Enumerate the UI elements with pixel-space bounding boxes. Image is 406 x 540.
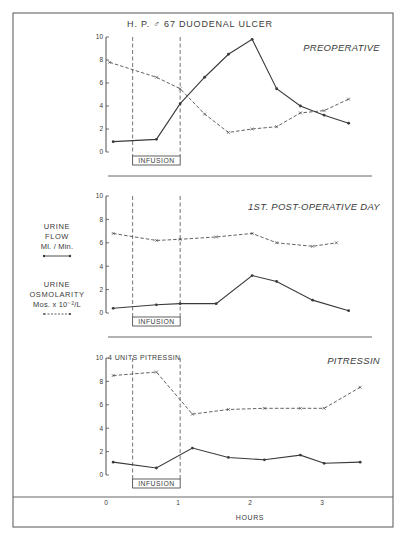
infusion-label: INFUSION: [138, 318, 174, 325]
flow-point-marker: [155, 467, 158, 470]
flow-point-marker: [323, 114, 326, 117]
y-tick-label: 8: [99, 378, 103, 385]
panel-3: 0246810INFUSIONPITRESSIN4 UNITS PITRESSI…: [96, 354, 380, 488]
x-axis-ticks: 0123: [104, 499, 324, 506]
y-tick-label: 4: [99, 102, 103, 109]
panel-1: 0246810INFUSIONPREOPERATIVE: [96, 33, 381, 165]
infusion-label: INFUSION: [138, 157, 174, 164]
osmolarity-x-marker: [347, 98, 350, 101]
y-tick-label: 0: [99, 148, 103, 155]
legend-flow-line3: Ml. / Min.: [18, 242, 96, 252]
y-tick-label: 2: [99, 448, 103, 455]
osmolarity-x-marker: [359, 386, 362, 389]
y-tick-label: 6: [99, 239, 103, 246]
flow-point-marker: [155, 138, 158, 141]
flow-point-marker: [251, 274, 254, 277]
y-tick-label: 10: [96, 192, 104, 199]
x-tick-label: 0: [104, 499, 108, 506]
flow-point-marker: [227, 53, 230, 56]
y-tick-label: 0: [99, 471, 103, 478]
y-tick-label: 0: [99, 309, 103, 316]
flow-point-marker: [347, 122, 350, 125]
flow-point-marker: [323, 462, 326, 465]
y-tick-label: 2: [99, 286, 103, 293]
x-tick-label: 3: [320, 499, 324, 506]
osmolarity-x-marker: [203, 113, 206, 116]
panel-title: 1ST. POST-OPERATIVE DAY: [248, 201, 380, 212]
y-tick-label: 6: [99, 401, 103, 408]
flow-point-marker: [112, 307, 115, 310]
osmolarity-line: [113, 233, 336, 246]
osmolarity-x-marker: [323, 407, 326, 410]
flow-point-marker: [299, 105, 302, 108]
legend-osm-line3: Mos. x 10⁻²/L: [18, 300, 96, 310]
flow-point-marker: [227, 456, 230, 459]
flow-line: [113, 448, 360, 468]
y-tick-label: 6: [99, 79, 103, 86]
y-tick-label: 2: [99, 125, 103, 132]
legend-urine-flow: URINE FLOW Ml. / Min.: [18, 222, 96, 263]
flow-point-marker: [179, 302, 182, 305]
flow-point-marker: [263, 458, 266, 461]
y-tick-label: 8: [99, 56, 103, 63]
x-axis-label: HOURS: [236, 514, 264, 521]
y-tick-label: 10: [96, 354, 104, 361]
osmolarity-x-marker: [335, 241, 338, 244]
legend-urine-osmolarity: URINE OSMOLARITY Mos. x 10⁻²/L: [18, 280, 96, 321]
osmolarity-x-marker: [155, 371, 158, 374]
dashed-line-x-icon: [42, 310, 72, 318]
legend-osm-line2: OSMOLARITY: [18, 290, 96, 300]
flow-point-marker: [311, 299, 314, 302]
solid-line-dot-icon: [42, 252, 72, 260]
panel-title: PREOPERATIVE: [303, 42, 380, 53]
y-tick-label: 8: [99, 216, 103, 223]
legend-osm-line1: URINE: [18, 280, 96, 290]
x-tick-label: 2: [248, 499, 252, 506]
panel-title: PITRESSIN: [327, 355, 380, 366]
chart-figure: H. P. ♂ 67 DUODENAL ULCER 0123 HOURS 024…: [0, 0, 406, 540]
flow-point-marker: [112, 140, 115, 143]
panel-2: 0246810INFUSION1ST. POST-OPERATIVE DAY: [96, 192, 381, 326]
chart-panels: 0246810INFUSIONPREOPERATIVE0246810INFUSI…: [96, 33, 381, 488]
y-tick-label: 4: [99, 425, 103, 432]
flow-point-marker: [275, 87, 278, 90]
flow-line: [113, 276, 348, 311]
flow-point-marker: [251, 38, 254, 41]
osmolarity-x-marker: [227, 131, 230, 134]
legend-flow-line1: URINE: [18, 222, 96, 232]
pitressin-annotation: 4 UNITS PITRESSIN: [108, 354, 181, 361]
flow-point-marker: [347, 309, 350, 312]
legend-flow-line2: FLOW: [18, 232, 96, 242]
flow-point-marker: [299, 454, 302, 457]
y-tick-label: 4: [99, 263, 103, 270]
flow-point-marker: [191, 447, 194, 450]
infusion-label: INFUSION: [138, 480, 174, 487]
flow-point-marker: [155, 303, 158, 306]
y-tick-label: 10: [96, 33, 104, 40]
flow-point-marker: [215, 302, 218, 305]
flow-point-marker: [179, 102, 182, 105]
flow-point-marker: [203, 76, 206, 79]
osmolarity-line: [110, 62, 349, 132]
osmolarity-line: [113, 372, 360, 414]
x-tick-label: 1: [176, 499, 180, 506]
flow-point-marker: [359, 461, 362, 464]
figure-frame: [13, 13, 393, 527]
flow-point-marker: [275, 280, 278, 283]
figure-title: H. P. ♂ 67 DUODENAL ULCER: [127, 19, 273, 29]
flow-point-marker: [112, 461, 115, 464]
flow-line: [113, 39, 348, 141]
osmolarity-x-marker: [155, 76, 158, 79]
